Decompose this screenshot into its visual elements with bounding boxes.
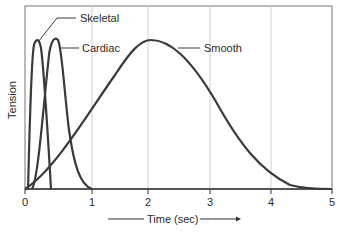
tick-2: 2 — [145, 196, 151, 208]
tick-4: 4 — [268, 196, 274, 208]
x-tick-labels: 0 1 2 3 4 5 — [22, 196, 335, 208]
cardiac-label: Cardiac — [82, 42, 120, 54]
smooth-label: Smooth — [204, 42, 242, 54]
tick-0: 0 — [22, 196, 28, 208]
tick-1: 1 — [89, 196, 95, 208]
tick-5: 5 — [329, 196, 335, 208]
cardiac-curve — [32, 39, 92, 189]
y-axis-label: Tension — [6, 81, 18, 119]
plot-frame — [25, 6, 332, 189]
series-labels: Skeletal Cardiac Smooth — [80, 12, 242, 54]
x-axis-label: Time (sec) — [147, 213, 199, 225]
tick-3: 3 — [207, 196, 213, 208]
arrow-right-icon — [236, 217, 241, 222]
gridlines — [92, 6, 271, 189]
skeletal-label: Skeletal — [80, 12, 119, 24]
smooth-curve — [25, 40, 332, 189]
tension-chart: 0 1 2 3 4 5 Skeletal Cardiac Smooth Tens… — [0, 0, 341, 232]
